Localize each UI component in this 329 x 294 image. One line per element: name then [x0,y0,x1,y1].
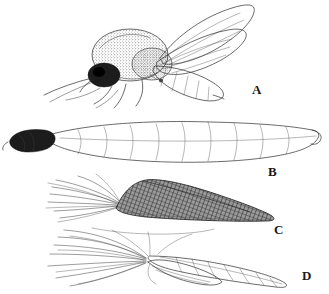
hatched-body-shape [116,180,274,222]
figure-label-d: D [302,268,312,284]
panel-a-adult-fly: A [0,0,260,112]
panel-c-hatched-pupa: C [0,176,329,236]
head-shape [80,63,120,92]
panel-d-outline-pupa: D [0,236,329,294]
lower-arc-shape [92,228,214,234]
larva-posterior-tip [311,130,321,144]
plume-hairs-shape [48,230,192,286]
plume-bristles-shape [46,174,119,222]
wing-upper-shape [160,5,254,64]
larva-body-shape [50,122,319,163]
panel-b-larva: B [0,112,329,180]
larva-head-capsule [3,129,55,152]
antenna-shape [44,78,93,102]
illustration-plate: A [0,0,329,294]
figure-label-a: A [252,82,262,98]
